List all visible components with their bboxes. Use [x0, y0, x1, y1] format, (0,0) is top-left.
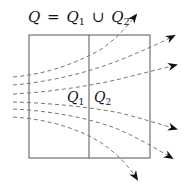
region-q2-base: Q	[94, 89, 105, 105]
formula-q2-sub: 2	[123, 16, 129, 27]
flow-line-arrow-icon	[13, 117, 137, 179]
formula-lhs: Q	[28, 8, 40, 26]
formula-q2: Q2	[111, 8, 130, 26]
formula-equals: =	[47, 8, 60, 26]
region-q2-sub: 2	[105, 97, 111, 107]
formula-q1-sub: 1	[79, 16, 85, 27]
formula-q2-base: Q	[111, 8, 123, 26]
formula-q1: Q1	[66, 8, 85, 26]
region-label-q1: Q1	[67, 90, 84, 107]
region-q1-base: Q	[67, 89, 78, 105]
formula-title: Q = Q1 ∪ Q2	[28, 10, 130, 27]
region-q1-sub: 1	[78, 97, 84, 107]
formula-q1-base: Q	[66, 8, 78, 26]
flow-line-arrow-icon	[13, 109, 172, 158]
flow-diagram: Q = Q1 ∪ Q2 Q1 Q2	[0, 0, 188, 196]
formula-union: ∪	[92, 8, 105, 26]
region-label-q2: Q2	[94, 90, 111, 107]
